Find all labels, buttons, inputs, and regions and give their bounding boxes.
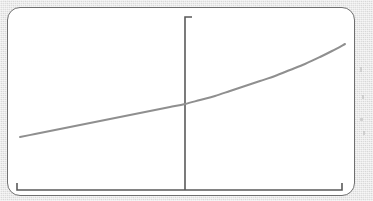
figure-page [0,0,373,201]
scan-speckle [360,118,363,121]
scan-speckle [362,95,364,99]
figure-card [7,7,355,196]
scan-speckle [363,131,365,135]
scan-speckle [360,67,362,72]
